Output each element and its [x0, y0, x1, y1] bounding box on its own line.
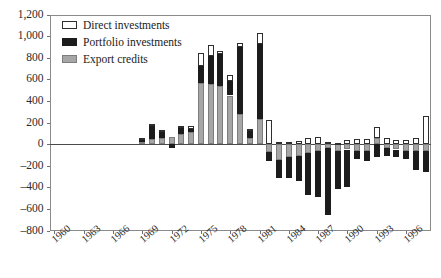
bar-segment: [374, 144, 380, 157]
y-axis-tick-label: 200: [0, 117, 44, 129]
bar-segment: [403, 140, 409, 144]
y-axis-tick-label: –400: [0, 181, 44, 193]
y-axis-tick-label: 1,000: [0, 30, 44, 42]
legend-swatch-direct-icon: [62, 21, 77, 29]
legend-label: Direct investments: [83, 19, 170, 31]
bar-segment: [384, 138, 390, 144]
bar-segment: [413, 144, 419, 150]
bar-segment: [305, 138, 311, 144]
bar-segment: [315, 137, 321, 145]
bar-segment: [276, 160, 282, 177]
bar-segment: [266, 144, 272, 152]
bar-segment: [169, 144, 175, 148]
bar-segment: [188, 129, 194, 132]
bar-segment: [139, 138, 145, 140]
bar-segment: [198, 83, 204, 145]
y-axis-tick-label: 0: [0, 138, 44, 150]
bar-segment: [296, 156, 302, 181]
y-axis-tick-mark: [47, 15, 50, 16]
bar-segment: [149, 139, 155, 144]
legend-label: Export credits: [83, 53, 148, 65]
bar-segment: [403, 144, 409, 150]
bar-segment: [315, 151, 321, 197]
bar-segment: [374, 138, 380, 144]
y-axis-tick-mark: [47, 79, 50, 80]
y-axis-tick-label: –200: [0, 160, 44, 172]
bar-segment: [325, 148, 331, 215]
bar-segment: [208, 84, 214, 144]
bar-segment: [354, 151, 360, 160]
bar-segment: [178, 127, 184, 135]
bar-segment: [423, 144, 429, 150]
legend-item: Direct investments: [62, 18, 182, 33]
y-axis-tick-mark: [47, 209, 50, 210]
bar-segment: [364, 151, 370, 162]
bar-segment: [139, 142, 145, 144]
y-axis-tick-label: 800: [0, 52, 44, 64]
bar-segment: [344, 140, 350, 144]
bar-segment: [169, 137, 175, 145]
bar-segment: [198, 66, 204, 82]
bar-segment: [286, 157, 292, 178]
bar-segment: [413, 138, 419, 144]
bar-segment: [159, 130, 165, 132]
bar-segment: [237, 114, 243, 144]
bar-segment: [423, 116, 429, 144]
bar-segment: [227, 75, 233, 81]
bar-segment: [335, 143, 341, 145]
bar-segment: [354, 144, 360, 150]
y-axis-tick-label: 400: [0, 95, 44, 107]
legend-label: Portfolio investments: [83, 36, 182, 48]
chart-container: 1,2001,0008006004002000–200–400–600–800 …: [0, 0, 441, 278]
bar-segment: [393, 140, 399, 144]
bar-segment: [423, 151, 429, 173]
bar-segment: [208, 45, 214, 56]
bar-segment: [305, 144, 311, 153]
bar-segment: [335, 151, 341, 190]
bar-segment: [159, 131, 165, 137]
y-axis-tick-label: 1,200: [0, 9, 44, 21]
bar-segment: [257, 33, 263, 44]
bar-segment: [257, 44, 263, 120]
bar-segment: [325, 142, 331, 144]
bar-segment: [364, 144, 370, 150]
bar-segment: [276, 142, 282, 144]
y-axis-tick-mark: [47, 123, 50, 124]
bar-segment: [178, 134, 184, 144]
bar-segment: [276, 144, 282, 160]
bar-segment: [149, 125, 155, 139]
bar-segment: [296, 141, 302, 144]
bar-segment: [286, 142, 292, 144]
y-axis-tick-label: –600: [0, 203, 44, 215]
legend-swatch-export-icon: [62, 55, 77, 63]
bar-segment: [237, 47, 243, 114]
bar-segment: [393, 150, 399, 158]
bar-segment: [227, 96, 233, 145]
y-axis-tick-label: 600: [0, 73, 44, 85]
bar-segment: [217, 51, 223, 54]
y-axis-tick-mark: [47, 166, 50, 167]
chart-legend: Direct investmentsPortfolio investmentsE…: [62, 18, 182, 69]
bar-segment: [198, 53, 204, 66]
bar-segment: [247, 129, 253, 131]
bar-segment: [305, 153, 311, 195]
legend-item: Portfolio investments: [62, 35, 182, 50]
bar-segment: [217, 86, 223, 144]
bar-segment: [266, 152, 272, 162]
bar-segment: [335, 144, 341, 150]
bar-segment: [364, 139, 370, 144]
y-axis-tick-label: –800: [0, 225, 44, 237]
bar-segment: [247, 131, 253, 137]
bar-segment: [178, 126, 184, 128]
bar-segment: [384, 148, 390, 156]
bar-segment: [257, 119, 263, 144]
bar-segment: [374, 127, 380, 138]
bar-segment: [413, 151, 419, 170]
bar-segment: [286, 144, 292, 157]
bar-segment: [403, 151, 409, 160]
y-axis-tick-mark: [47, 187, 50, 188]
bar-segment: [237, 43, 243, 47]
y-axis-tick-mark: [47, 231, 50, 232]
y-axis-tick-mark: [47, 101, 50, 102]
bar-segment: [296, 144, 302, 156]
